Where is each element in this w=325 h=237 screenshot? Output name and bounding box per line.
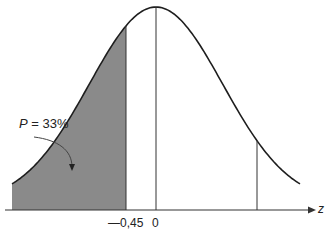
axis-arrow-icon <box>308 207 316 214</box>
probability-value: = 33% <box>28 116 69 131</box>
tick-label-zero: 0 <box>152 216 159 230</box>
tick-label-neg-0-45: —0,45 <box>108 216 143 230</box>
probability-variable: P <box>19 116 28 131</box>
axis-label-z: z <box>318 202 324 216</box>
probability-label: P = 33% <box>19 116 69 131</box>
